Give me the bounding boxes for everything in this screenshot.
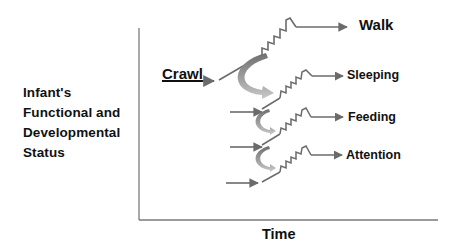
curved-transition-arrow-attention xyxy=(256,146,276,172)
feeding-trajectory xyxy=(262,108,343,145)
sleeping-label: Sleeping xyxy=(347,68,399,82)
sleeping-trajectory xyxy=(262,70,343,109)
feeding-label: Feeding xyxy=(348,110,396,124)
curved-transition-arrow xyxy=(238,53,274,99)
curved-transition-arrow-feeding xyxy=(256,109,276,135)
y-axis-label-line: Status xyxy=(23,143,120,163)
y-axis-label-line: Developmental xyxy=(23,123,120,143)
x-axis-label: Time xyxy=(262,226,296,242)
crawl-label: Crawl xyxy=(162,65,203,82)
y-axis-label-line: Functional and xyxy=(23,103,120,123)
y-axis-label: Infant's Functional and Developmental St… xyxy=(23,83,120,163)
attention-trajectory xyxy=(262,146,342,182)
attention-label: Attention xyxy=(346,148,401,162)
walk-trajectory xyxy=(219,18,347,80)
walk-label: Walk xyxy=(359,16,393,33)
y-axis-label-line: Infant's xyxy=(23,83,120,103)
